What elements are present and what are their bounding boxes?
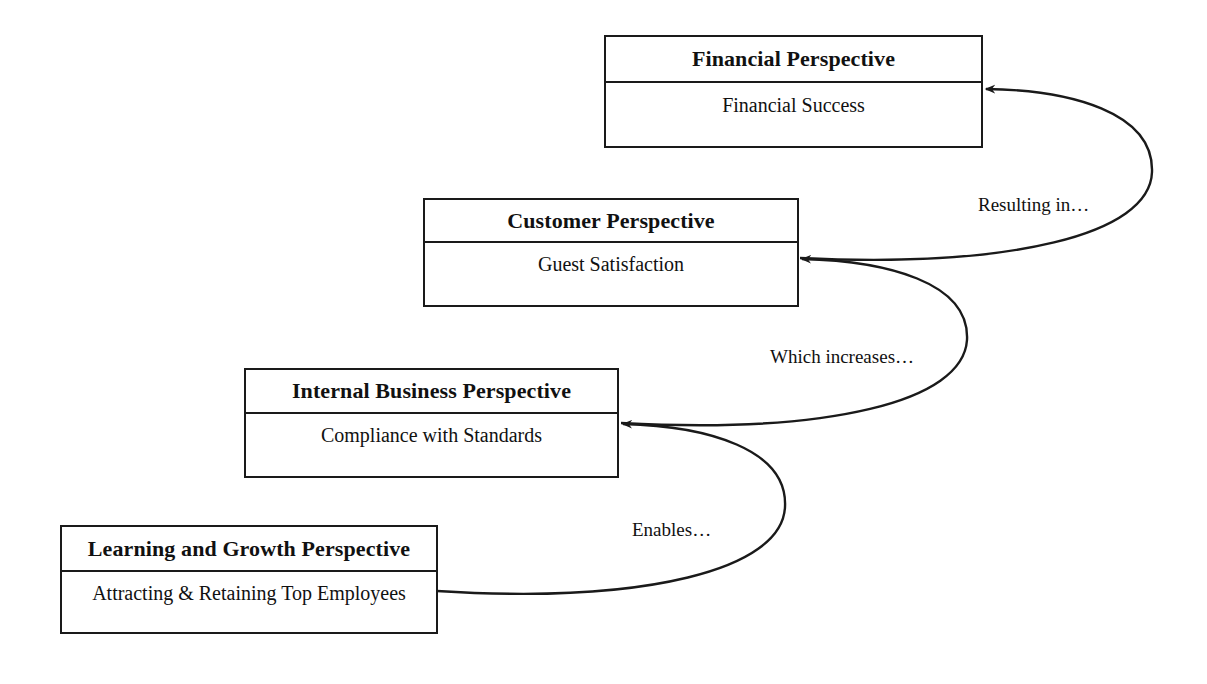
box-measure-financial: Financial Success (606, 83, 981, 146)
box-title-financial: Financial Perspective (606, 37, 981, 83)
box-measure-customer: Guest Satisfaction (425, 243, 797, 305)
box-title-learning-and-growth: Learning and Growth Perspective (62, 527, 436, 572)
perspective-box-internal-business[interactable]: Internal Business Perspective Compliance… (244, 368, 619, 478)
perspective-box-customer[interactable]: Customer Perspective Guest Satisfaction (423, 198, 799, 307)
perspective-box-learning-and-growth[interactable]: Learning and Growth Perspective Attracti… (60, 525, 438, 634)
box-measure-internal-business: Compliance with Standards (246, 414, 617, 476)
strategy-map-diagram: Financial Perspective Financial Success … (0, 0, 1207, 684)
connector-label-which-increases: Which increases… (770, 346, 914, 368)
box-title-internal-business: Internal Business Perspective (246, 370, 617, 414)
connector-label-resulting-in: Resulting in… (978, 194, 1089, 216)
connector-label-enables: Enables… (632, 519, 711, 541)
box-measure-learning-and-growth: Attracting & Retaining Top Employees (62, 572, 436, 632)
perspective-box-financial[interactable]: Financial Perspective Financial Success (604, 35, 983, 148)
box-title-customer: Customer Perspective (425, 200, 797, 243)
